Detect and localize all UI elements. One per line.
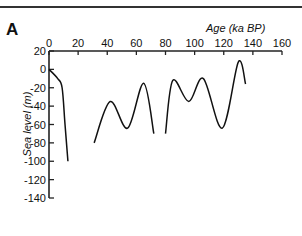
sea-level-chart: 020406080100120140160200-20-40-60-80-100…: [0, 0, 302, 236]
y-tick-label: -20: [30, 82, 46, 94]
x-tick-label: 140: [244, 37, 262, 49]
y-tick-label: -100: [24, 155, 46, 167]
x-tick-label: 0: [46, 37, 52, 49]
x-tick-label: 120: [215, 37, 233, 49]
y-tick-label: 20: [34, 45, 46, 57]
y-tick-label: -60: [30, 119, 46, 131]
y-tick-label: -120: [24, 174, 46, 186]
y-tick-label: -140: [24, 192, 46, 204]
y-tick-label: -80: [30, 137, 46, 149]
x-tick-label: 100: [185, 37, 203, 49]
x-tick-label: 160: [273, 37, 291, 49]
x-tick-label: 80: [159, 37, 171, 49]
x-tick-label: 60: [130, 37, 142, 49]
sea-level-curve-segment-3: [166, 61, 246, 134]
y-tick-label: -40: [30, 100, 46, 112]
x-tick-label: 20: [72, 37, 84, 49]
sea-level-curve-segment-1: [49, 69, 68, 161]
y-tick-label: 0: [40, 63, 46, 75]
sea-level-curve-segment-2: [94, 83, 154, 143]
x-tick-label: 40: [101, 37, 113, 49]
